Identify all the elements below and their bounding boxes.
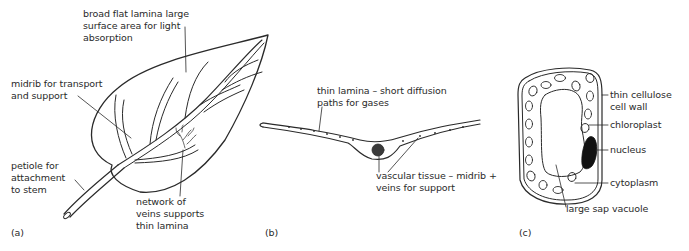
cross-section-drawing (260, 107, 480, 172)
petiole (64, 165, 124, 217)
label-petiole: petiole for attachment to stem (11, 160, 65, 196)
label-cell-wall: thin cellulose cell wall (610, 89, 672, 113)
leaf-lamina-outline (91, 35, 268, 192)
mesophyll-dots (288, 126, 464, 142)
label-vacuole: large sap vacuole (566, 203, 648, 215)
cell-wall-outer (518, 68, 602, 204)
leaf-adaptations-diagram: broad flat lamina large surface area for… (0, 0, 689, 251)
side-vein (185, 62, 208, 118)
midrib (118, 40, 262, 165)
side-vein (150, 78, 173, 144)
label-lamina: broad flat lamina large surface area for… (83, 8, 189, 44)
panel-tag-c: (c) (519, 227, 531, 239)
leader-petiole (75, 180, 84, 190)
label-vein-network: network of veins supports thin lamina (136, 196, 204, 232)
vacuole (540, 89, 585, 176)
label-cytoplasm: cytoplasm (610, 177, 658, 189)
label-nucleus: nucleus (610, 144, 646, 156)
side-vein (135, 145, 195, 160)
leader-vacuole (556, 165, 566, 207)
label-vascular-tissue: vascular tissue – midrib + veins for sup… (376, 170, 497, 194)
chloroplasts (526, 72, 596, 193)
leaf-drawing (63, 27, 268, 220)
panel-tag-a: (a) (11, 227, 24, 239)
vein-network (176, 125, 196, 148)
panel-tag-b: (b) (265, 227, 278, 239)
label-midrib: midrib for transport and support (11, 78, 103, 102)
side-vein (225, 60, 258, 82)
cell-drawing (518, 68, 608, 207)
vascular-bundle (372, 144, 384, 156)
label-thin-lamina: thin lamina – short diffusion paths for … (317, 85, 447, 109)
leader-thin-lamina (319, 107, 322, 131)
label-chloroplast: chloroplast (610, 119, 661, 131)
